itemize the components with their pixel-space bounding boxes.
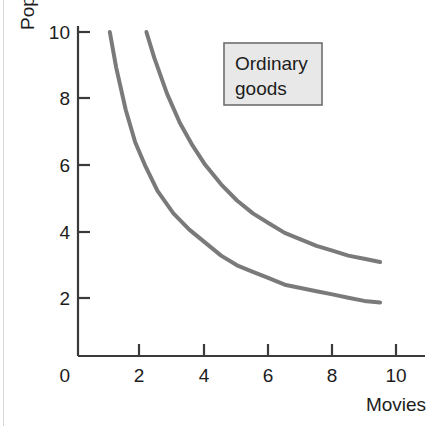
y-tick-label-10: 10 [49,22,70,43]
origin-label: 0 [59,365,70,386]
y-axis-label: Pop (cans) [17,0,38,30]
x-tick-label-6: 6 [263,365,274,386]
legend-line-2: goods [235,78,287,99]
x-axis-label: Movies [366,394,426,415]
indifference-curve-chart: 10 8 6 4 2 0 2 4 6 8 10 Pop (cans) Movie… [0,0,435,426]
x-tick-label-4: 4 [199,365,210,386]
y-tick-label-4: 4 [59,222,70,243]
legend-line-1: Ordinary [235,53,308,74]
x-axis-tick-labels: 2 4 6 8 10 [134,365,407,386]
y-tick-label-6: 6 [59,155,70,176]
y-tick-label-2: 2 [59,288,70,309]
x-axis-ticks [139,344,396,356]
y-tick-label-8: 8 [59,88,70,109]
y-axis-ticks [78,32,90,298]
y-axis-tick-labels: 10 8 6 4 2 [49,22,71,309]
ordinary-goods-legend: Ordinary goods [224,43,322,105]
chart-page: 10 8 6 4 2 0 2 4 6 8 10 Pop (cans) Movie… [0,0,435,426]
x-tick-label-8: 8 [327,365,338,386]
x-tick-label-2: 2 [134,365,145,386]
x-tick-label-10: 10 [385,365,406,386]
